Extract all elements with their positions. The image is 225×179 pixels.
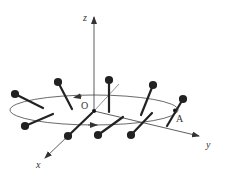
point-a-label: A (176, 114, 183, 124)
rod-ball (128, 132, 134, 138)
diagram-canvas (0, 0, 225, 179)
rod-ball (180, 96, 186, 102)
y-axis (94, 111, 199, 136)
rod-ball (22, 123, 28, 129)
z-axis-label: z (83, 13, 87, 23)
rod-ball (106, 77, 112, 83)
rods (12, 77, 186, 139)
rod-ball (65, 133, 71, 139)
rod (141, 85, 153, 115)
rod-ball (95, 132, 101, 138)
rod-ball (12, 91, 18, 97)
rod-ball (150, 82, 156, 88)
rotating-rods-diagram: z y x O A (0, 0, 225, 179)
oblique-line (94, 84, 119, 111)
rod (98, 117, 123, 135)
rod (15, 94, 43, 108)
rod (25, 114, 53, 126)
direction-arrow-icon (74, 96, 82, 98)
x-axis-label: x (36, 160, 40, 170)
origin-label: O (81, 101, 88, 111)
rod-ball (55, 79, 61, 85)
y-axis-label: y (206, 140, 210, 150)
